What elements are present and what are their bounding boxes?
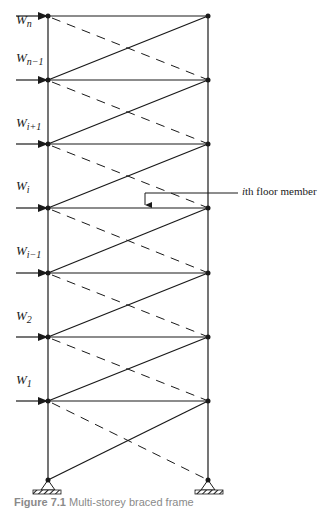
annotation-text: th floor member (245, 185, 316, 197)
left-joint-icon (46, 142, 51, 147)
left-base-joint-icon (46, 478, 51, 483)
dashed-brace (52, 210, 206, 272)
right-joint-icon (206, 335, 211, 340)
right-joint-icon (206, 14, 211, 19)
load-label-subscript: i+1 (27, 121, 42, 132)
right-joint-icon (206, 399, 211, 404)
right-joint-icon (206, 142, 211, 147)
ith-floor-member-label: ith floor member (242, 185, 317, 197)
load-label-base: W (16, 308, 27, 323)
left-joint-icon (46, 399, 51, 404)
load-label-base: W (16, 12, 27, 27)
load-label-subscript: n−1 (27, 56, 44, 67)
load-label-subscript: i (27, 184, 30, 195)
left-joint-icon (46, 271, 51, 276)
right-joint-icon (206, 78, 211, 83)
load-label: Wi (16, 178, 30, 195)
load-label-base: W (16, 372, 27, 387)
load-label-subscript: n (27, 18, 32, 29)
load-label-subscript: i−1 (27, 249, 42, 260)
caption-label: Figure 7.1 (14, 496, 66, 508)
left-joint-icon (46, 78, 51, 83)
figure-caption: Figure 7.1 Multi-storey braced frame (14, 496, 194, 508)
load-label-base: W (16, 50, 27, 65)
right-joint-icon (206, 271, 211, 276)
caption-text: Multi-storey braced frame (69, 496, 194, 508)
load-label: Wi−1 (16, 243, 41, 260)
dashed-brace (52, 403, 206, 479)
floor-beams (48, 16, 208, 401)
right-base-joint-icon (206, 478, 211, 483)
bracing-members (48, 16, 208, 480)
load-label-base: W (16, 178, 27, 193)
left-joint-icon (46, 14, 51, 19)
load-label-base: W (16, 243, 27, 258)
load-label: Wn (16, 12, 32, 29)
load-label-base: W (16, 115, 27, 130)
ith-floor-member-leader (145, 193, 238, 205)
right-joint-icon (206, 206, 211, 211)
left-joint-icon (46, 335, 51, 340)
load-label-subscript: 2 (27, 314, 32, 325)
load-label: W1 (16, 372, 32, 389)
load-label: W2 (16, 308, 32, 325)
load-label: Wn−1 (16, 50, 44, 67)
load-label: Wi+1 (16, 115, 41, 132)
load-label-subscript: 1 (27, 378, 32, 389)
load-arrows (16, 16, 47, 401)
left-joint-icon (46, 206, 51, 211)
